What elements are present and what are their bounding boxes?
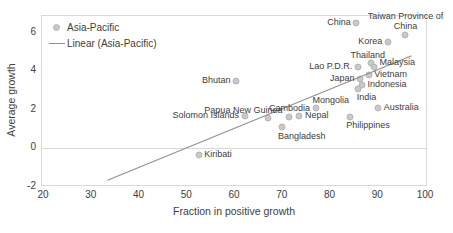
x-tick-label: 50	[171, 189, 201, 200]
data-point-label: Japan	[330, 74, 355, 84]
legend-item-asia-pacific: Asia-Pacific	[48, 19, 156, 35]
data-point-label: Philippines	[346, 121, 390, 131]
legend-label: Linear (Asia-Pacific)	[67, 38, 156, 49]
x-axis-title: Fraction in positive growth	[41, 205, 427, 217]
y-tick-label: 2	[14, 103, 36, 115]
trend-line-icon	[48, 43, 65, 44]
data-point-label: Mongolia	[313, 95, 350, 105]
y-tick-label: 6	[14, 26, 36, 38]
data-point-label: Lao P.D.R.	[309, 63, 352, 73]
x-tick-label: 30	[76, 189, 106, 200]
legend-label: Asia-Pacific	[67, 22, 119, 33]
x-tick-label: 70	[267, 189, 297, 200]
y-tick-label: 4	[14, 64, 36, 76]
legend-item-linear: Linear (Asia-Pacific)	[48, 35, 156, 51]
scatter-marker-icon	[48, 24, 65, 31]
x-tick-label: 40	[124, 189, 154, 200]
data-point-label: Australia	[384, 103, 419, 113]
data-point-label: India	[357, 93, 377, 103]
x-tick-label: 100	[410, 189, 440, 200]
y-tick-label: 0	[14, 141, 36, 153]
data-point-label: Malaysia	[379, 59, 415, 69]
x-tick-label: 90	[362, 189, 392, 200]
data-point-label: China	[327, 18, 351, 28]
data-point-label: Bhutan	[202, 76, 231, 86]
scatter-chart: Average growth 6420-2 ChinaTaiwan Provin…	[0, 0, 453, 233]
x-tick-label: 20	[28, 189, 58, 200]
data-point-label: Bangladesh	[278, 132, 326, 142]
data-point-label: Papua New Guinea	[204, 105, 282, 115]
x-tick-label: 60	[219, 189, 249, 200]
data-point-label: Taiwan Province of China	[368, 12, 444, 31]
data-point-label: Indonesia	[368, 80, 407, 90]
data-point-label: Korea	[358, 38, 382, 48]
data-point-label: Kiribati	[204, 150, 232, 160]
legend: Asia-Pacific Linear (Asia-Pacific)	[48, 19, 156, 51]
x-tick-label: 80	[315, 189, 345, 200]
